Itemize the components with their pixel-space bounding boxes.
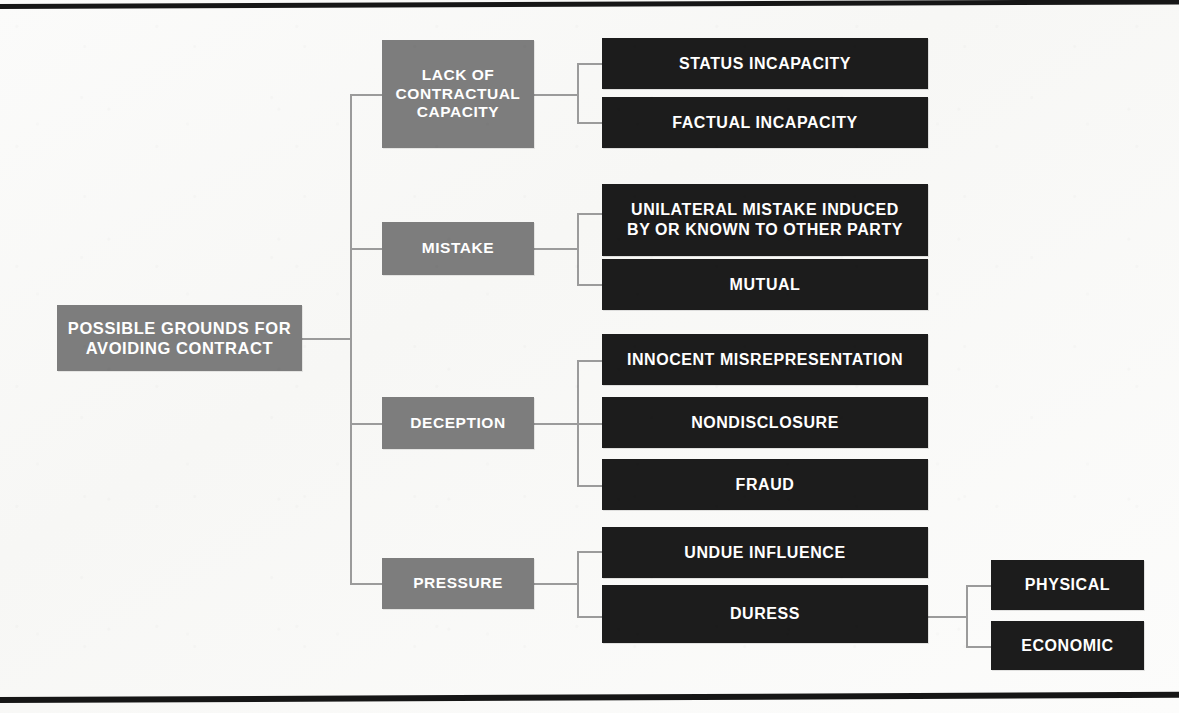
node-root-line2: AVOIDING CONTRACT [86,338,273,358]
connector-pressure-to-duress [577,616,603,618]
node-physical[interactable]: PHYSICAL [991,560,1144,610]
diagram-canvas: POSSIBLE GROUNDS FOR AVOIDING CONTRACT L… [0,0,1179,713]
connector-capacity-stub [534,94,578,96]
node-mutual[interactable]: MUTUAL [602,259,928,310]
connector-pressure-to-undue [577,551,603,553]
node-duress-label: DURESS [730,604,800,624]
node-duress[interactable]: DURESS [602,585,928,643]
node-nondisclosure-label: NONDISCLOSURE [691,413,839,433]
connector-trunk [350,94,352,584]
connector-trunk-to-mistake [350,248,383,250]
connector-trunk-to-pressure [350,583,383,585]
node-mutual-label: MUTUAL [730,275,801,295]
connector-duress-to-physical [966,585,991,587]
node-mistake[interactable]: MISTAKE [382,222,534,275]
connector-mistake-stub [534,248,578,250]
node-physical-label: PHYSICAL [1025,575,1110,595]
node-fraud-label: FRAUD [736,475,795,495]
node-capacity-line1: LACK OF [422,66,495,85]
node-deception-label: DECEPTION [410,414,505,433]
node-innocent-misrepresentation-label: INNOCENT MISREPRESENTATION [627,350,903,370]
node-capacity-line2: CONTRACTUAL [396,85,521,104]
node-capacity-line3: CAPACITY [417,103,499,122]
node-pressure-label: PRESSURE [413,574,503,593]
node-deception[interactable]: DECEPTION [382,397,534,449]
node-status-incapacity[interactable]: STATUS INCAPACITY [602,38,928,89]
top-rule [0,0,1179,9]
node-undue-influence[interactable]: UNDUE INFLUENCE [602,527,928,578]
node-root[interactable]: POSSIBLE GROUNDS FOR AVOIDING CONTRACT [57,305,302,371]
connector-pressure-bus [577,551,579,617]
node-economic-label: ECONOMIC [1021,636,1113,656]
node-factual-incapacity[interactable]: FACTUAL INCAPACITY [602,97,928,148]
connector-trunk-to-capacity [350,94,383,96]
node-mistake-label: MISTAKE [422,239,494,258]
node-unilateral-mistake-line1: UNILATERAL MISTAKE INDUCED [631,200,899,220]
connector-duress-to-economic [966,646,991,648]
node-unilateral-mistake-line2: BY OR KNOWN TO OTHER PARTY [627,220,903,240]
node-economic[interactable]: ECONOMIC [991,621,1144,670]
connector-mistake-to-unilateral [577,213,603,215]
connector-mistake-bus [577,213,579,285]
node-fraud[interactable]: FRAUD [602,459,928,510]
node-factual-incapacity-label: FACTUAL INCAPACITY [672,113,858,133]
connector-trunk-to-deception [350,423,383,425]
connector-mistake-to-mutual [577,284,603,286]
connector-capacity-bus [577,63,579,123]
node-root-line1: POSSIBLE GROUNDS FOR [68,318,291,338]
connector-deception-to-innocent [577,360,603,362]
connector-deception-to-fraud [577,485,603,487]
node-status-incapacity-label: STATUS INCAPACITY [679,54,851,74]
node-unilateral-mistake[interactable]: UNILATERAL MISTAKE INDUCED BY OR KNOWN T… [602,184,928,256]
connector-deception-to-nondisclosure [577,423,603,425]
bottom-rule [0,692,1179,703]
connector-root-stub [301,338,351,340]
connector-capacity-to-status [577,63,603,65]
node-undue-influence-label: UNDUE INFLUENCE [684,543,845,563]
connector-duress-stub [928,616,967,618]
connector-capacity-to-factual [577,122,603,124]
node-innocent-misrepresentation[interactable]: INNOCENT MISREPRESENTATION [602,334,928,385]
connector-deception-stub [534,423,578,425]
connector-duress-bus [966,585,968,647]
node-lack-of-contractual-capacity[interactable]: LACK OF CONTRACTUAL CAPACITY [382,40,534,148]
node-nondisclosure[interactable]: NONDISCLOSURE [602,397,928,448]
connector-pressure-stub [534,583,578,585]
node-pressure[interactable]: PRESSURE [382,558,534,609]
